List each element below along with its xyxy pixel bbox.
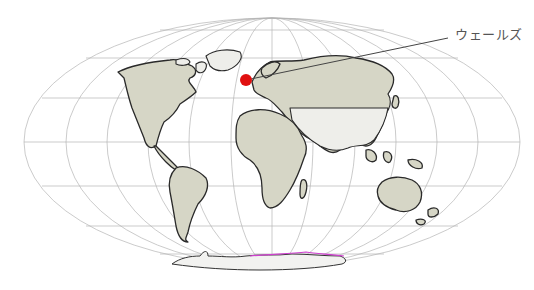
new-zealand (416, 208, 438, 225)
wales-marker (240, 74, 252, 86)
madagascar (300, 180, 307, 199)
australia (377, 177, 421, 211)
arctic-island (176, 59, 190, 66)
arctic-island-2 (196, 62, 206, 73)
greenland (206, 50, 241, 71)
wales-label: ウェールズ (455, 24, 523, 43)
southeast-asia-islands (366, 150, 422, 169)
africa (236, 110, 306, 208)
world-map (0, 0, 534, 290)
japan (392, 96, 399, 109)
south-america (169, 167, 207, 242)
north-america (118, 60, 196, 148)
